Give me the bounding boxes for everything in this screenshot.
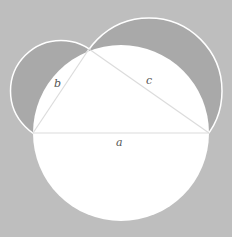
label-a: a <box>116 136 123 149</box>
lune-diagram: a b c <box>0 0 232 237</box>
label-c: c <box>146 74 152 87</box>
label-b: b <box>54 77 61 90</box>
